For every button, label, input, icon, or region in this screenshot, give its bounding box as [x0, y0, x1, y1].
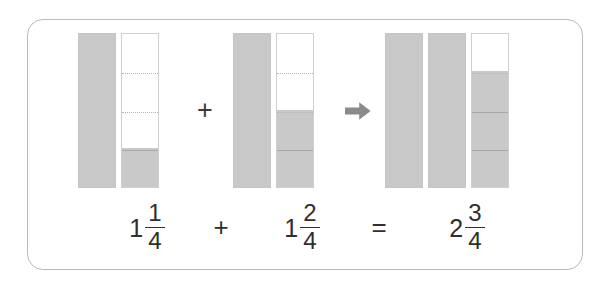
term1-numerator: 1 [145, 201, 164, 226]
equation-term-1: 1 1 4 [103, 196, 191, 258]
equation-term-2: 1 2 4 [258, 196, 346, 258]
mixed-number-2: 1 2 4 [284, 201, 319, 253]
term2-fraction: 2 4 [300, 201, 319, 253]
equation-equals-symbol: = [371, 214, 386, 240]
term2-denominator: 4 [300, 228, 319, 253]
result-numerator: 3 [465, 201, 484, 226]
mixed-number-1: 1 1 4 [129, 201, 164, 253]
result-denominator: 4 [465, 228, 484, 253]
equation-plus-symbol: + [213, 214, 228, 240]
fraction-model-figure: + 1 1 [0, 0, 611, 288]
term1-fraction: 1 4 [145, 201, 164, 253]
equation-operator-plus: + [191, 196, 251, 258]
equation-operator-equals: = [349, 196, 409, 258]
term1-denominator: 4 [145, 228, 164, 253]
term2-whole: 1 [284, 216, 300, 241]
mixed-number-result: 2 3 4 [449, 201, 484, 253]
equation-result: 2 3 4 [423, 196, 511, 258]
term1-whole: 1 [129, 216, 145, 241]
term2-numerator: 2 [300, 201, 319, 226]
equation-row: 1 1 4 + 1 2 4 [27, 196, 583, 262]
result-fraction: 3 4 [465, 201, 484, 253]
result-whole: 2 [449, 216, 465, 241]
